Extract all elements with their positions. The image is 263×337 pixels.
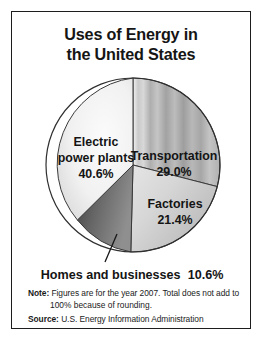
pie-value-factories: 21.4%: [157, 213, 192, 227]
note-lead: Note:: [28, 288, 49, 298]
footnotes: Note: Figures are for the year 2007. Tot…: [28, 288, 240, 326]
pie-label-transportation: Transportation: [131, 149, 218, 163]
figure-frame: Uses of Energy in the United States: [11, 11, 251, 329]
note-line-2: 100% because of rounding.: [50, 300, 152, 310]
note-line-2-row: 100% because of rounding.: [28, 300, 240, 312]
callout-value: 10.6%: [188, 268, 224, 282]
note-row: Note: Figures are for the year 2007. Tot…: [28, 288, 240, 300]
pie-value-transportation: 29.0%: [156, 165, 191, 179]
source-lead: Source:: [28, 314, 59, 324]
callout-label: Homes and businesses: [41, 268, 181, 282]
source-text: U.S. Energy Information Administration: [61, 314, 203, 324]
pie-chart: Transportation 29.0% Factories 21.4% Ele…: [12, 12, 252, 330]
pie-label-electric-power-plants-line1: Electric: [74, 135, 119, 149]
pie-label-factories: Factories: [147, 197, 202, 211]
pie-value-electric-power-plants: 40.6%: [78, 167, 113, 181]
pie-label-electric-power-plants-line2: power plants: [58, 151, 135, 165]
note-line-1: Figures are for the year 2007. Total doe…: [51, 288, 239, 298]
source-row: Source: U.S. Energy Information Administ…: [28, 314, 240, 326]
pie-callout-homes-and-businesses: Homes and businesses10.6%: [12, 268, 252, 282]
pie-chart-svg: Transportation 29.0% Factories 21.4% Ele…: [12, 12, 252, 330]
